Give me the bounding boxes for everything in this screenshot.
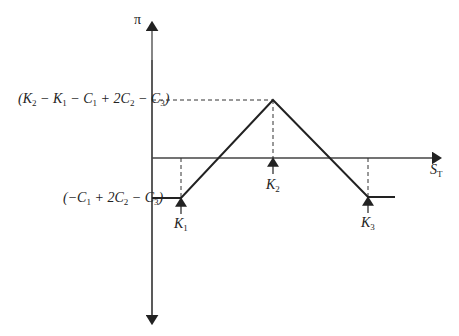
peak-value-label: (K2 − K1 − C1 + 2C2 − C3) bbox=[18, 91, 169, 108]
floor-value-label: (−C1 + 2C2 − C3) bbox=[63, 190, 163, 207]
payoff-diagram bbox=[0, 0, 459, 336]
k1-label: K1 bbox=[174, 216, 188, 233]
k3-label: K3 bbox=[361, 215, 375, 232]
y-axis-label: π bbox=[134, 12, 141, 28]
pi-label: π bbox=[134, 12, 141, 27]
s-label: S bbox=[430, 162, 437, 177]
k2-label: K2 bbox=[266, 177, 280, 194]
t-sub: T bbox=[437, 169, 443, 179]
x-axis-label: ST bbox=[430, 162, 443, 179]
